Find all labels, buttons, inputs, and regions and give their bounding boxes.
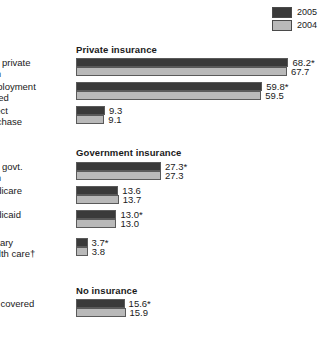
- chart-group: Any govt.plan27.3*27.3: [0, 162, 333, 182]
- category-label: Medicaid: [0, 210, 73, 221]
- category-label-line: purchase: [0, 117, 73, 128]
- category-label: Directpurchase: [0, 106, 73, 127]
- bar-value-label: 15.9: [130, 307, 149, 318]
- bar-2004: [76, 91, 261, 100]
- bar-value-label: 59.5: [265, 90, 284, 101]
- bar-value-label: 9.1: [108, 114, 121, 125]
- bar-2005: [76, 106, 105, 115]
- category-label-line: Military: [0, 238, 73, 249]
- section-title: Government insurance: [76, 147, 181, 158]
- bar-2005: [76, 210, 116, 219]
- insurance-coverage-chart: 2005 2004 Private insuranceAny privatepl…: [0, 0, 333, 341]
- category-label-line: plan: [0, 69, 73, 80]
- category-label-line: Any govt.: [0, 162, 73, 173]
- bar-value-label: 3.8: [92, 246, 105, 257]
- chart-legend: 2005 2004: [272, 7, 330, 33]
- section-title: Private insurance: [76, 44, 157, 55]
- bar-value-label: 13.0: [120, 218, 139, 229]
- chart-group: Not covered15.6*15.9: [0, 299, 333, 319]
- bar-2005: [76, 238, 88, 247]
- bar-2004: [76, 247, 88, 256]
- bar-2004: [76, 115, 104, 124]
- chart-group: Medicare13.613.7: [0, 186, 333, 206]
- legend-label-2004: 2004: [297, 20, 317, 31]
- category-label: Any govt.plan: [0, 162, 73, 183]
- category-label-line: Not covered: [0, 299, 73, 310]
- category-label: Medicare: [0, 186, 73, 197]
- bar-value-label: 67.7: [291, 66, 310, 77]
- chart-group: Any privateplan68.2*67.7: [0, 58, 333, 78]
- legend-label-2005: 2005: [297, 7, 317, 18]
- chart-group: Militaryhealth care†3.7*3.8: [0, 238, 333, 258]
- bar-value-label: 13.7: [123, 194, 142, 205]
- category-label: Employmentbased: [0, 82, 73, 103]
- category-label-line: health care†: [0, 249, 73, 260]
- bar-2005: [76, 162, 161, 171]
- section-title: No insurance: [76, 285, 137, 296]
- category-label-line: Employment: [0, 82, 73, 93]
- bar-2005: [76, 186, 118, 195]
- bar-value-label: 27.3: [165, 170, 184, 181]
- category-label-line: Medicaid: [0, 210, 73, 221]
- bar-2004: [76, 195, 119, 204]
- category-label-line: Any private: [0, 58, 73, 69]
- category-label: Not covered: [0, 299, 73, 310]
- chart-group: Employmentbased59.8*59.5: [0, 82, 333, 102]
- legend-item-2005: 2005: [272, 7, 330, 18]
- legend-swatch-2005: [272, 7, 292, 18]
- bar-2005: [76, 58, 288, 67]
- bar-2005: [76, 299, 125, 308]
- category-label-line: Direct: [0, 106, 73, 117]
- category-label-line: Medicare: [0, 186, 73, 197]
- bar-2004: [76, 219, 116, 228]
- bar-2004: [76, 308, 126, 317]
- legend-swatch-2004: [272, 20, 292, 31]
- category-label: Any privateplan: [0, 58, 73, 79]
- chart-group: Medicaid13.0*13.0: [0, 210, 333, 230]
- category-label: Militaryhealth care†: [0, 238, 73, 259]
- bar-2005: [76, 82, 262, 91]
- chart-group: Directpurchase9.39.1: [0, 106, 333, 126]
- bar-2004: [76, 67, 287, 76]
- bar-2004: [76, 171, 161, 180]
- category-label-line: plan: [0, 173, 73, 184]
- legend-item-2004: 2004: [272, 20, 330, 31]
- category-label-line: based: [0, 93, 73, 104]
